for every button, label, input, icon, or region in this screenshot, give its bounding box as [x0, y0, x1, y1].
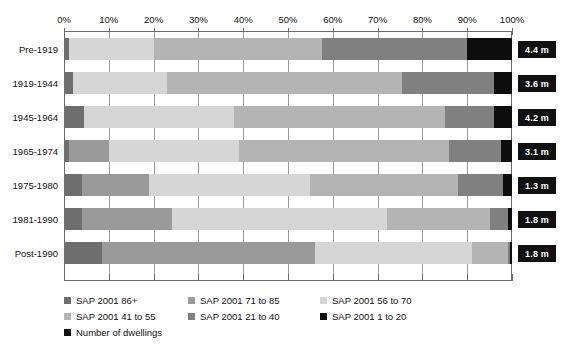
value-badge: 1.3 m [518, 177, 556, 194]
category-label: 1975-1980 [0, 180, 58, 191]
x-axis-tick-label: 90% [458, 14, 477, 25]
x-axis-tick-label: 10% [99, 14, 118, 25]
bar-segment[interactable] [510, 242, 512, 264]
x-axis-tick-label: 40% [234, 14, 253, 25]
legend-label: Number of dwellings [76, 327, 162, 338]
legend-item[interactable]: SAP 2001 56 to 70 [320, 295, 450, 306]
legend-item[interactable]: Number of dwellings [64, 327, 188, 338]
legend-item[interactable]: SAP 2001 86+ [64, 295, 188, 306]
plot-area [64, 32, 512, 280]
bar-segment[interactable] [82, 208, 172, 230]
x-axis-tick-bottom [422, 274, 423, 281]
bar-segment[interactable] [494, 72, 512, 94]
chart-root: 0%10%20%30%40%50%60%70%80%90%100% Pre-19… [0, 0, 564, 350]
x-axis-tick-bottom [243, 274, 244, 281]
bar-segment[interactable] [458, 174, 503, 196]
bar-segment[interactable] [322, 38, 468, 60]
value-badge: 3.6 m [518, 75, 556, 92]
bar-segment[interactable] [402, 72, 494, 94]
bar-row[interactable] [64, 242, 512, 264]
x-axis-tick-bottom [512, 274, 513, 281]
x-axis-tick-label: 80% [413, 14, 432, 25]
bar-segment[interactable] [172, 208, 387, 230]
legend-label: SAP 2001 56 to 70 [332, 295, 412, 306]
category-label: 1945-1964 [0, 112, 58, 123]
legend-swatch-icon [64, 297, 71, 304]
x-axis-tick-bottom [198, 274, 199, 281]
bar-segment[interactable] [494, 106, 512, 128]
bar-segment[interactable] [109, 140, 239, 162]
bar-segment[interactable] [64, 106, 84, 128]
category-label: 1981-1990 [0, 214, 58, 225]
bar-segment[interactable] [387, 208, 490, 230]
legend-swatch-icon [320, 313, 327, 320]
bar-segment[interactable] [149, 174, 310, 196]
bar-row[interactable] [64, 208, 512, 230]
bar-segment[interactable] [239, 140, 450, 162]
legend-swatch-icon [320, 297, 327, 304]
x-axis-tick-label: 50% [278, 14, 297, 25]
bar-segment[interactable] [508, 208, 512, 230]
bar-segment[interactable] [167, 72, 402, 94]
legend-item[interactable]: SAP 2001 1 to 20 [320, 311, 450, 322]
x-axis-tick-bottom [467, 274, 468, 281]
x-axis-tick-bottom [288, 274, 289, 281]
chart-legend: SAP 2001 86+SAP 2001 71 to 85SAP 2001 56… [64, 292, 504, 340]
bar-segment[interactable] [501, 140, 512, 162]
legend-swatch-icon [188, 313, 195, 320]
bar-segment[interactable] [73, 72, 167, 94]
bar-segment[interactable] [472, 242, 508, 264]
bar-segment[interactable] [315, 242, 472, 264]
category-label: Pre-1919 [0, 44, 58, 55]
value-badge: 3.1 m [518, 143, 556, 160]
bar-segment[interactable] [449, 140, 501, 162]
bar-segment[interactable] [64, 208, 82, 230]
x-axis-tick-bottom [64, 274, 65, 281]
legend-item[interactable]: SAP 2001 21 to 40 [188, 311, 320, 322]
legend-row: SAP 2001 86+SAP 2001 71 to 85SAP 2001 56… [64, 292, 504, 308]
bar-segment[interactable] [467, 38, 512, 60]
value-badge: 4.2 m [518, 109, 556, 126]
bar-segment[interactable] [82, 174, 149, 196]
x-axis-tick-label: 0% [57, 14, 71, 25]
category-label: 1919-1944 [0, 78, 58, 89]
bar-segment[interactable] [84, 106, 234, 128]
bar-segment[interactable] [234, 106, 445, 128]
bar-row[interactable] [64, 174, 512, 196]
bar-segment[interactable] [64, 72, 73, 94]
bar-segment[interactable] [490, 208, 508, 230]
bar-segment[interactable] [154, 38, 322, 60]
value-badge: 1.8 m [518, 211, 556, 228]
value-badge: 4.4 m [518, 41, 556, 58]
bar-segment[interactable] [102, 242, 315, 264]
x-axis-tick-bottom [333, 274, 334, 281]
x-axis-tick-bottom [154, 274, 155, 281]
x-axis-tick-label: 70% [368, 14, 387, 25]
legend-swatch-icon [188, 297, 195, 304]
bar-row[interactable] [64, 38, 512, 60]
category-label: 1965-1974 [0, 146, 58, 157]
bar-segment[interactable] [69, 140, 108, 162]
legend-item[interactable]: SAP 2001 71 to 85 [188, 295, 320, 306]
bar-row[interactable] [64, 140, 512, 162]
bar-segment[interactable] [64, 242, 102, 264]
bar-row[interactable] [64, 106, 512, 128]
legend-label: SAP 2001 86+ [76, 295, 137, 306]
bar-segment[interactable] [69, 38, 153, 60]
x-axis-tick-bottom [378, 274, 379, 281]
bar-segment[interactable] [445, 106, 494, 128]
bar-segment[interactable] [64, 174, 82, 196]
x-axis-tick-label: 60% [323, 14, 342, 25]
legend-row: SAP 2001 41 to 55SAP 2001 21 to 40SAP 20… [64, 308, 504, 324]
x-axis-tick [512, 28, 513, 35]
bar-row[interactable] [64, 72, 512, 94]
legend-item[interactable]: SAP 2001 41 to 55 [64, 311, 188, 322]
legend-label: SAP 2001 1 to 20 [332, 311, 406, 322]
bar-segment[interactable] [310, 174, 458, 196]
x-axis-tick-label: 100% [500, 14, 524, 25]
legend-label: SAP 2001 21 to 40 [200, 311, 280, 322]
category-label: Post-1990 [0, 248, 58, 259]
legend-row: Number of dwellings [64, 324, 504, 340]
value-badge: 1.8 m [518, 245, 556, 262]
bar-segment[interactable] [503, 174, 512, 196]
